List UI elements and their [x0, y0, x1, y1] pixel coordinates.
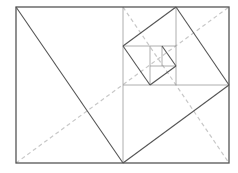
diagonal-line	[176, 7, 229, 85]
diagonal-line	[123, 85, 229, 163]
diagonal-line	[123, 46, 150, 85]
diagonal-line	[162, 46, 176, 66]
diagonal-line	[123, 7, 176, 46]
diagonal-line	[16, 7, 123, 163]
diagonal-line	[150, 66, 176, 85]
golden-rectangle-diagram	[0, 0, 238, 173]
